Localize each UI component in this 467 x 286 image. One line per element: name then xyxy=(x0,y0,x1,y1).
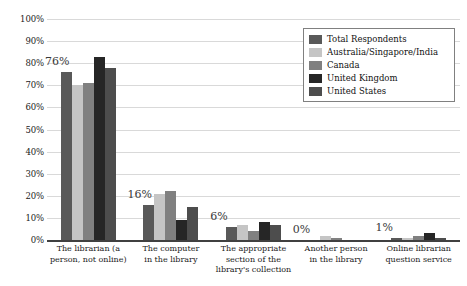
bar-group: 76% xyxy=(47,19,130,240)
bar xyxy=(413,236,424,240)
x-axis-category-label-line: The librarian (a xyxy=(47,244,130,255)
x-axis-category-label-line: in the library xyxy=(295,255,378,266)
x-axis-category-label-line: library's collection xyxy=(212,265,295,276)
x-axis-baseline xyxy=(47,240,460,242)
bar-data-label: 6% xyxy=(210,210,227,223)
y-axis-tick-label: 20% xyxy=(0,191,44,201)
legend-swatch-icon xyxy=(309,74,322,83)
bar xyxy=(72,85,83,240)
x-axis-category-label-line: section of the xyxy=(212,255,295,266)
y-axis: 100%90%80%70%60%50%40%30%20%10%0% xyxy=(0,0,44,286)
bar-group: 16% xyxy=(130,19,213,240)
x-axis-category-label-line: in the library xyxy=(130,255,213,266)
legend-item-label: Australia/Singapore/India xyxy=(327,47,438,57)
x-axis-category-label: Another personin the library xyxy=(295,244,378,265)
x-axis-category-label: Online librarianquestion service xyxy=(377,244,460,265)
x-axis-category-label-line: The computer xyxy=(130,244,213,255)
bar xyxy=(424,233,435,240)
bar xyxy=(143,205,154,240)
bar xyxy=(176,220,187,240)
bar xyxy=(331,238,342,240)
bar-group-bars xyxy=(212,19,295,240)
y-axis-tick-label: 90% xyxy=(0,36,44,46)
bar xyxy=(270,225,281,240)
bar xyxy=(165,191,176,240)
legend-swatch-icon xyxy=(309,48,322,57)
bar-group-bars xyxy=(130,19,213,240)
bar xyxy=(259,222,270,240)
bar xyxy=(61,72,72,240)
x-axis-category-label-line: question service xyxy=(377,255,460,266)
legend-item[interactable]: Total Respondents xyxy=(309,33,449,45)
y-axis-tick-label: 10% xyxy=(0,213,44,223)
bar xyxy=(105,68,116,240)
legend-item[interactable]: Canada xyxy=(309,59,449,71)
legend-swatch-icon xyxy=(309,35,322,44)
legend-item-label: Total Respondents xyxy=(327,34,407,44)
bar xyxy=(94,57,105,240)
bar xyxy=(83,83,94,240)
y-axis-tick-label: 30% xyxy=(0,169,44,179)
bar xyxy=(248,231,259,240)
bar xyxy=(237,225,248,240)
legend-item-label: Canada xyxy=(327,60,360,70)
bar xyxy=(154,194,165,240)
y-axis-tick-label: 0% xyxy=(0,235,44,245)
bar xyxy=(187,207,198,240)
chart-legend: Total RespondentsAustralia/Singapore/Ind… xyxy=(303,28,455,102)
legend-swatch-icon xyxy=(309,61,322,70)
x-axis-category-label-line: Online librarian xyxy=(377,244,460,255)
y-axis-tick-label: 60% xyxy=(0,102,44,112)
x-axis-category-label: The appropriatesection of thelibrary's c… xyxy=(212,244,295,276)
bar-data-label: 1% xyxy=(375,221,392,234)
bar xyxy=(402,238,413,240)
y-axis-tick-label: 40% xyxy=(0,147,44,157)
bar xyxy=(435,238,446,240)
bar-group: 6% xyxy=(212,19,295,240)
bar-group-bars xyxy=(47,19,130,240)
bar-data-label: 0% xyxy=(293,223,310,236)
y-axis-tick-label: 80% xyxy=(0,58,44,68)
bar-chart: 100%90%80%70%60%50%40%30%20%10%0% 76%The… xyxy=(0,0,467,286)
bar xyxy=(391,238,402,240)
x-axis-category-label-line: person, not online) xyxy=(47,255,130,266)
y-axis-tick-label: 70% xyxy=(0,80,44,90)
x-axis-category-label-line: Another person xyxy=(295,244,378,255)
legend-item[interactable]: Australia/Singapore/India xyxy=(309,46,449,58)
legend-item-label: United Kingdom xyxy=(327,73,398,83)
legend-swatch-icon xyxy=(309,87,322,96)
y-axis-tick-label: 100% xyxy=(0,14,44,24)
legend-item[interactable]: United Kingdom xyxy=(309,72,449,84)
x-axis-category-label-line: The appropriate xyxy=(212,244,295,255)
legend-item-label: United States xyxy=(327,86,386,96)
x-axis-category-label: The computerin the library xyxy=(130,244,213,265)
bar xyxy=(320,236,331,240)
bar-data-label: 16% xyxy=(128,188,152,201)
legend-item[interactable]: United States xyxy=(309,85,449,97)
y-axis-tick-label: 50% xyxy=(0,125,44,135)
bar-data-label: 76% xyxy=(45,55,69,68)
bar xyxy=(226,227,237,240)
x-axis-category-label: The librarian (aperson, not online) xyxy=(47,244,130,265)
